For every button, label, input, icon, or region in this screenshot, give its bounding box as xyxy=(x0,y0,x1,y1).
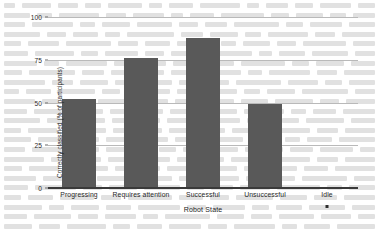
bar-slot xyxy=(234,17,296,188)
bar-slot xyxy=(172,17,234,188)
x-axis-tick-label: Requires attention xyxy=(110,191,172,198)
y-axis-tick-label: 25 xyxy=(34,142,42,149)
y-axis-title: Correctly classified (% of participants) xyxy=(56,48,63,198)
bar-slot xyxy=(296,17,358,188)
x-axis-tick-label: Unsuccessful xyxy=(234,191,296,198)
x-axis-tick-label: Progressing xyxy=(48,191,110,198)
bar-series xyxy=(48,17,358,188)
y-axis-tick-label: 50 xyxy=(34,99,42,106)
bar xyxy=(248,104,283,188)
bar-slot xyxy=(110,17,172,188)
x-axis-tick-label: Successful xyxy=(172,191,234,198)
x-axis-tick-labels: ProgressingRequires attentionSuccessfulU… xyxy=(48,191,358,198)
plot-area: 0255075100 Correctly classified (% of pa… xyxy=(48,17,358,188)
x-axis-line xyxy=(48,187,358,189)
bar xyxy=(124,58,159,188)
bar xyxy=(186,38,221,188)
y-axis-tick-label: 100 xyxy=(31,14,42,21)
bar xyxy=(62,99,97,188)
x-axis-title: Robot State xyxy=(48,206,358,213)
x-axis-tick-label: Idle xyxy=(296,191,358,198)
y-axis-tick-label: 75 xyxy=(34,56,42,63)
y-axis-tick-label: 0 xyxy=(38,185,42,192)
bar-chart-figure: 0255075100 Correctly classified (% of pa… xyxy=(0,0,379,232)
